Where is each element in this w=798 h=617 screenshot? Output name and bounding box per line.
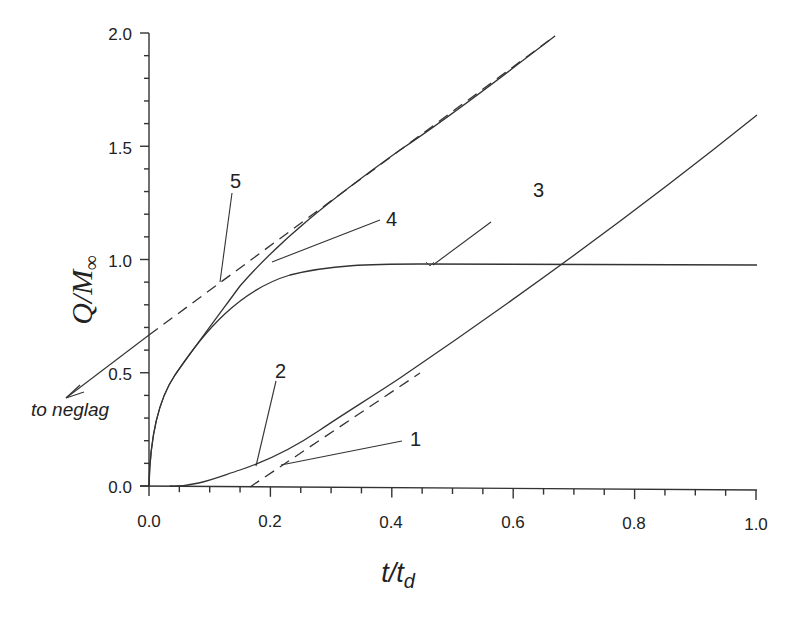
- curve-label-2: 2: [275, 360, 286, 382]
- curve-label-1: 1: [410, 428, 421, 450]
- y-tick-label: 1.0: [108, 252, 132, 271]
- curve-label-3: 3: [533, 179, 544, 201]
- leader-line-4: [272, 220, 380, 262]
- leader-line-1: [281, 441, 402, 465]
- y-tick-label: 2.0: [108, 25, 132, 44]
- x-axis-title: t/td: [381, 558, 416, 592]
- x-tick-label: 0.6: [501, 513, 525, 532]
- leader-line-2: [256, 381, 276, 466]
- x-tick-label: 1.0: [744, 515, 768, 534]
- axes: [140, 33, 757, 500]
- to-neglag-annotation: to neglag: [31, 399, 110, 420]
- curve-2: [170, 115, 757, 486]
- x-tick-labels: 0.0 0.2 0.4 0.6 0.8 1.0: [137, 512, 768, 534]
- y-tick-labels: 0.0 0.5 1.0 1.5 2.0: [108, 25, 132, 497]
- chart: 0.0 0.5 1.0 1.5 2.0 0.0 0.2 0.4 0.6 0.8 …: [0, 0, 798, 617]
- x-tick-label: 0.0: [137, 512, 161, 531]
- leader-line-3: [433, 222, 491, 265]
- y-axis-title: Q/M∞: [65, 255, 102, 324]
- y-tick-label: 0.0: [108, 478, 132, 497]
- x-tick-label: 0.2: [258, 512, 282, 531]
- y-axis-ticks: [140, 33, 149, 486]
- y-tick-label: 0.5: [108, 365, 132, 384]
- leader-line-5: [220, 193, 232, 282]
- curve-1-dashed-asymptote: [250, 373, 420, 487]
- x-tick-label: 0.4: [379, 513, 403, 532]
- neglag-arrow-line: [66, 335, 149, 398]
- curve-3: [149, 264, 757, 486]
- y-tick-label: 1.5: [108, 139, 132, 158]
- x-axis-ticks: [149, 486, 756, 500]
- curve-4: [149, 36, 555, 486]
- x-tick-label: 0.8: [622, 514, 646, 533]
- curve-label-5: 5: [230, 170, 241, 192]
- curve-label-4: 4: [386, 208, 397, 230]
